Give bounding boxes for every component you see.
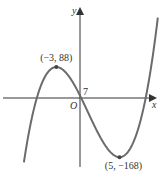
y-axis-label: y (71, 5, 77, 16)
y-intercept-label: 7 (83, 86, 88, 97)
x-axis-label: x (151, 99, 157, 110)
curve-line (24, 18, 158, 163)
minimum-point (118, 155, 122, 159)
origin-label: O (70, 100, 77, 111)
maximum-label: (−3, 88) (40, 52, 72, 64)
maximum-point (54, 65, 58, 69)
minimum-label: (5, −168) (105, 160, 142, 172)
cubic-graph: x y O (−3, 88)(5, −168)7 (0, 0, 160, 174)
